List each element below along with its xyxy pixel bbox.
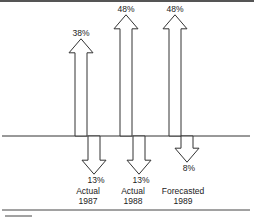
category-label: Actual [76, 186, 100, 196]
down-arrow [175, 136, 199, 162]
arrows-group [69, 15, 199, 174]
category-label: 1989 [174, 196, 193, 206]
up-arrow [69, 39, 93, 136]
arrow-chart: 38%13%Actual198748%13%Actual198848%8%For… [0, 0, 254, 217]
down-arrow [127, 136, 151, 174]
down-value-label: 13% [87, 175, 104, 185]
category-label: 1988 [124, 196, 143, 206]
category-label: 1987 [79, 196, 98, 206]
up-arrow [163, 15, 187, 136]
down-value-label: 13% [132, 175, 149, 185]
down-arrow [82, 136, 106, 174]
down-value-label: 8% [183, 163, 196, 173]
category-label: Actual [121, 186, 145, 196]
category-label: Forecasted [162, 186, 205, 196]
labels-group: 38%13%Actual198748%13%Actual198848%8%For… [72, 4, 204, 206]
up-value-label: 48% [117, 4, 134, 14]
up-arrow [114, 15, 138, 136]
up-value-label: 48% [166, 4, 183, 14]
up-value-label: 38% [72, 28, 89, 38]
